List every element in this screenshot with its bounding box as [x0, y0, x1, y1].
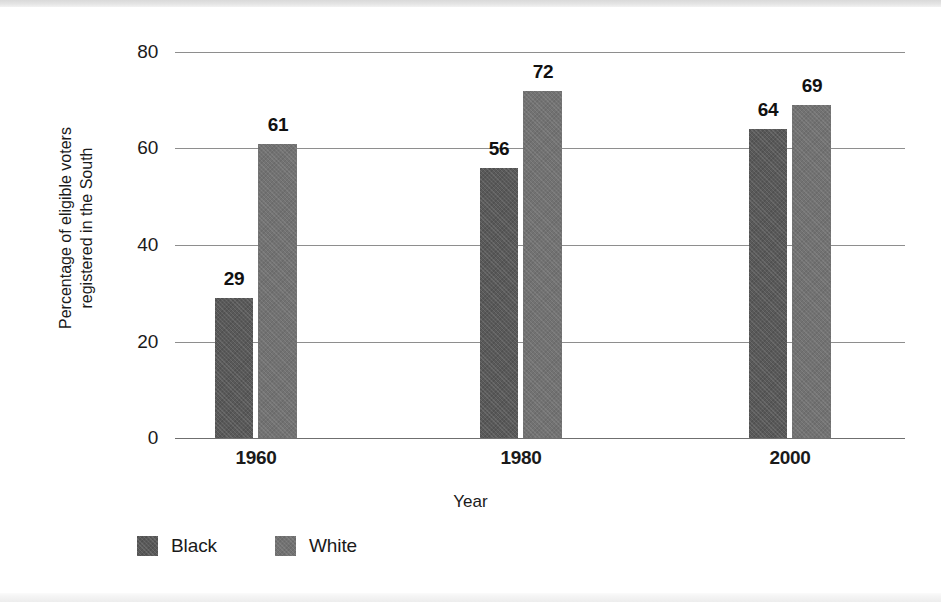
gridline-baseline-0	[175, 438, 905, 439]
y-tick-label-20: 20	[112, 331, 158, 353]
y-tick-label-60: 60	[112, 137, 158, 159]
legend-label-white: White	[309, 535, 357, 557]
scan-artifact-bottom-band	[0, 593, 941, 602]
y-axis-title: Percentage of eligible voters registered…	[55, 78, 97, 378]
y-axis-title-line2: registered in the South	[76, 78, 97, 378]
plot-area: 80 60 40 20 0 Percentage of eligible vot…	[0, 7, 941, 477]
y-axis-title-line1: Percentage of eligible voters	[55, 78, 76, 378]
bar-group-1980-bars	[480, 46, 563, 438]
y-tick-label-40: 40	[112, 234, 158, 256]
y-tick-label-80: 80	[112, 41, 158, 63]
legend-swatch-white-icon	[275, 536, 296, 556]
bar-group-1980: 56 72	[480, 46, 563, 438]
legend-item-black[interactable]: Black	[137, 535, 217, 557]
scan-artifact-top-band	[0, 0, 941, 7]
bar-1960-black[interactable]	[215, 298, 253, 438]
legend-item-white[interactable]: White	[275, 535, 357, 557]
bar-value-2000-white: 69	[782, 75, 842, 97]
bar-value-2000-black: 64	[738, 99, 798, 121]
bar-1980-black[interactable]	[480, 168, 518, 438]
bar-2000-white[interactable]	[792, 105, 831, 438]
legend-swatch-black-icon	[137, 536, 158, 556]
bar-2000-black[interactable]	[749, 129, 787, 438]
bar-1960-white[interactable]	[258, 144, 297, 438]
bar-group-1960: 29 61	[215, 46, 298, 438]
bar-value-1980-black: 56	[469, 138, 529, 160]
chart-legend: Black White	[137, 535, 357, 557]
x-tick-label-2000: 2000	[730, 447, 850, 469]
bar-group-2000: 64 69	[749, 46, 832, 438]
x-axis-title: Year	[0, 492, 941, 512]
bar-value-1960-white: 61	[248, 114, 308, 136]
bar-group-1960-bars	[215, 46, 298, 438]
bar-value-1960-black: 29	[204, 268, 264, 290]
y-tick-label-0: 0	[112, 427, 158, 449]
x-tick-label-1980: 1980	[461, 447, 581, 469]
x-tick-label-1960: 1960	[196, 447, 316, 469]
chart-figure: 80 60 40 20 0 Percentage of eligible vot…	[0, 7, 941, 593]
legend-label-black: Black	[171, 535, 217, 557]
bar-value-1980-white: 72	[513, 61, 573, 83]
